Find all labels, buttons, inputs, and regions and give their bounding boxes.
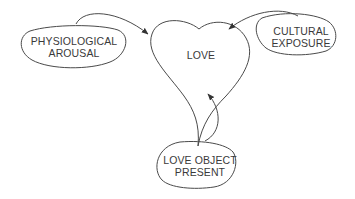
cultural-exposure-label: CULTURAL EXPOSURE xyxy=(266,25,336,49)
physiological-arousal-label: PHYSIOLOGICAL AROUSAL xyxy=(24,35,124,59)
love-label: LOVE xyxy=(178,49,224,61)
physio-line1: PHYSIOLOGICAL xyxy=(24,35,124,47)
love-text: LOVE xyxy=(187,49,215,61)
cultural-line1: CULTURAL xyxy=(266,25,336,37)
physio-line2: AROUSAL xyxy=(24,47,124,59)
arrow-physio-to-love xyxy=(76,14,148,34)
love-object-present-label: LOVE OBJECT PRESENT xyxy=(160,154,240,178)
object-line2: PRESENT xyxy=(160,166,240,178)
object-line1: LOVE OBJECT xyxy=(160,154,240,166)
love-heart-shape xyxy=(151,21,250,146)
arrow-object-to-love xyxy=(205,94,218,141)
cultural-line2: EXPOSURE xyxy=(266,37,336,49)
